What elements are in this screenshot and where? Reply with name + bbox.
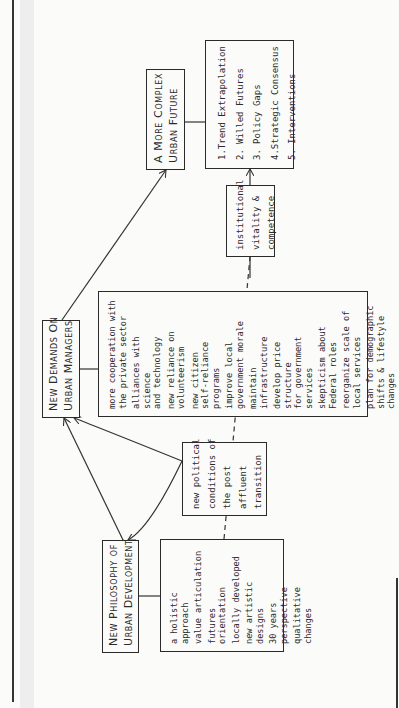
political-line: the post	[220, 449, 236, 509]
item-number: 1.	[214, 149, 232, 160]
institutional-line: competence	[264, 192, 280, 250]
philosophy-title-box: New Philosophy of Urban Development	[102, 540, 139, 653]
demands-title-box: New Demands On Urban Managers	[42, 320, 80, 418]
future-list-item: 5.Interventions	[284, 49, 302, 160]
institutional-line: institutional	[233, 192, 249, 250]
future-title-box: A More Complex Urban Future	[146, 69, 185, 170]
philosophy-item: futures orientation	[207, 547, 228, 644]
future-list-item: 3.Policy Gaps	[249, 49, 267, 160]
philosophy-item: a holistic approach	[169, 547, 190, 644]
philosophy-item: qualitative changes	[292, 547, 313, 644]
future-list-item: 2.Willed Futures	[232, 49, 250, 160]
demands-list-box: more cooperation with the private sector…	[98, 291, 368, 417]
philosophy-item: 30 years perspective	[268, 547, 289, 644]
political-line: new political	[189, 449, 205, 509]
philosophy-title-line: Urban Development	[121, 547, 136, 646]
political-line: transition	[251, 449, 267, 509]
demands-item: develop price structure for government s…	[272, 299, 314, 409]
demands-title-line: New Demands On	[46, 327, 61, 411]
philosophy-title-line: New Philosophy of	[106, 547, 121, 646]
edge-political-philosophy	[128, 461, 182, 540]
item-label: Strategic Consensus	[267, 46, 285, 149]
political-conditions-box: new political conditions of the post aff…	[182, 442, 267, 516]
demands-item: new citizen self-reliance programs	[190, 299, 222, 409]
future-list-box: 1.Trend Extrapolation 2.Willed Futures 3…	[205, 40, 294, 169]
item-number: 4.	[267, 149, 285, 160]
diagram-canvas: New Philosophy of Urban Development a ho…	[0, 0, 399, 708]
demands-item: maintain infrastructure	[248, 299, 269, 409]
future-title-line: Urban Future	[166, 76, 181, 163]
demands-item: more cooperation with the private sector	[107, 299, 128, 409]
item-number: 5.	[284, 144, 302, 160]
future-list-item: 1.Trend Extrapolation	[214, 49, 232, 160]
demands-item: new reliance on volunteerism	[166, 299, 187, 409]
philosophy-list-box: a holistic approach value articulation f…	[160, 539, 284, 652]
item-label: Interventions	[284, 74, 302, 144]
demands-item: improve local government morale	[224, 299, 245, 409]
item-number: 2.	[232, 144, 250, 160]
demands-item: reorganize scale of local services	[341, 299, 362, 409]
edge-philosophy-demands	[64, 418, 123, 540]
future-title-line: A More Complex	[151, 76, 166, 163]
philosophy-item: locally developed	[231, 547, 242, 644]
edge-political-demands	[74, 418, 182, 461]
item-label: Trend Extrapolation	[214, 46, 232, 149]
item-number: 3.	[249, 144, 267, 160]
future-list-item: 4.Strategic Consensus	[267, 49, 285, 160]
item-label: Policy Gaps	[249, 84, 267, 144]
demands-title-line: Urban Managers	[61, 327, 76, 411]
philosophy-item: new artistic designs	[244, 547, 265, 644]
philosophy-item: value articulation	[193, 547, 204, 644]
institutional-box: institutional vitality & competence	[226, 185, 275, 257]
demands-item: alliances with science and technology	[131, 299, 163, 409]
political-line: conditions of	[205, 449, 221, 509]
item-label: Willed Futures	[232, 68, 250, 144]
institutional-line: vitality &	[249, 192, 265, 250]
demands-item: plan for demographic shifts & lifestyle …	[365, 299, 397, 409]
political-line: affluent	[236, 449, 252, 509]
demands-item: skepticism about Federal roles	[317, 299, 338, 409]
